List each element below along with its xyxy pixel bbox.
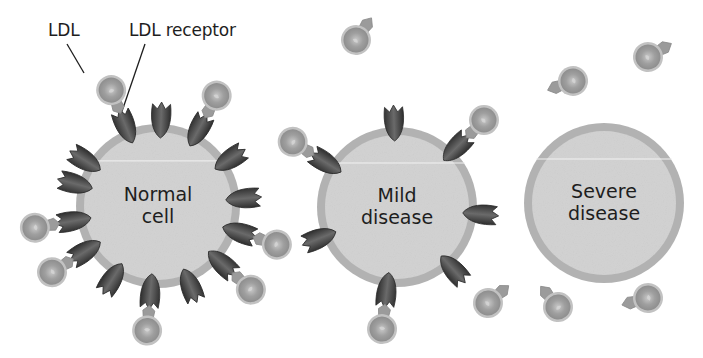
normal-ldl-receptor-13 <box>198 240 272 310</box>
mild-ldl-receptor-1 <box>433 99 505 171</box>
normal-cell-label-line2: cell <box>124 206 193 228</box>
free-ldl-4 <box>529 277 579 328</box>
normal-cell-label: Normal cell <box>124 184 193 228</box>
free-ldl-2 <box>628 31 679 78</box>
mild-disease-label-line1: Mild <box>361 185 433 207</box>
free-ldl-3 <box>467 274 518 324</box>
free-ldl-1 <box>542 62 592 105</box>
mild-disease-label-line2: disease <box>361 207 433 229</box>
severe-disease-label-line1: Severe <box>568 181 640 203</box>
ldl-receptor-label: LDL receptor <box>129 22 236 39</box>
free-ldl-5 <box>618 280 666 320</box>
severe-disease-label: Severe disease <box>568 181 640 225</box>
severe-disease-label-line2: disease <box>568 203 640 225</box>
normal-cell-label-line1: Normal <box>124 184 193 206</box>
ldl-receptor-diagram <box>0 0 703 358</box>
ldl-leader <box>67 44 84 73</box>
mild-disease-label: Mild disease <box>361 185 433 229</box>
ldl-label: LDL <box>48 22 79 39</box>
free-ldl-0 <box>335 9 384 61</box>
